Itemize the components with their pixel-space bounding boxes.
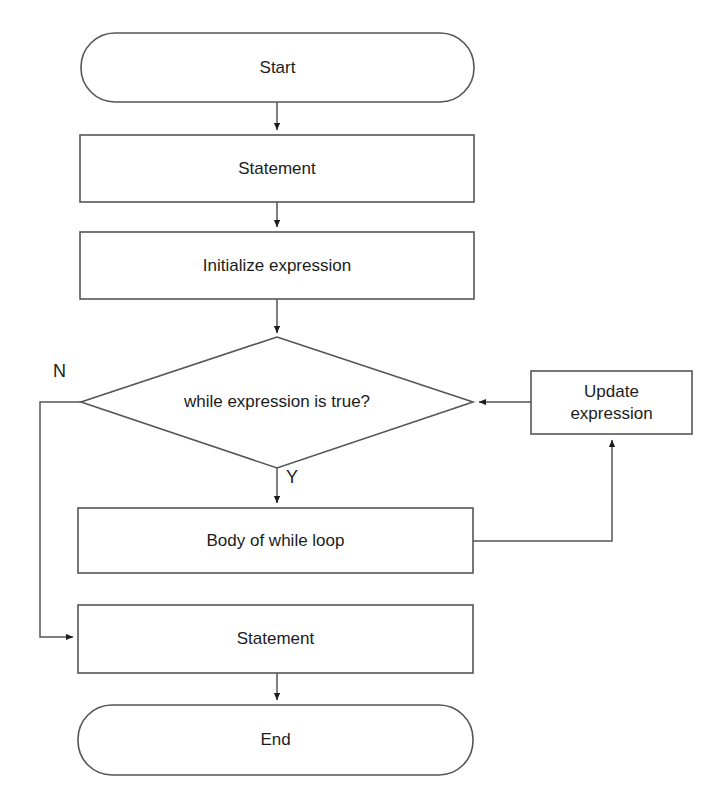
edge-condition-no-to-statement xyxy=(40,402,81,637)
flowchart-canvas: Start Statement Initialize expression wh… xyxy=(0,0,727,811)
node-end-shape[interactable] xyxy=(78,705,473,775)
node-statement-top-shape[interactable] xyxy=(80,135,474,202)
node-statement-bottom-shape[interactable] xyxy=(78,605,473,673)
yes-branch-label: Y xyxy=(286,468,298,486)
node-start-shape[interactable] xyxy=(81,33,474,102)
node-while-condition-shape[interactable] xyxy=(81,337,473,468)
edge-body-to-update xyxy=(473,440,612,541)
no-branch-label: N xyxy=(53,362,66,380)
node-initialize-expression-shape[interactable] xyxy=(80,232,474,299)
flowchart-svg xyxy=(0,0,727,811)
node-update-expression-shape[interactable] xyxy=(531,371,692,434)
node-body-of-while-loop-shape[interactable] xyxy=(78,508,473,573)
